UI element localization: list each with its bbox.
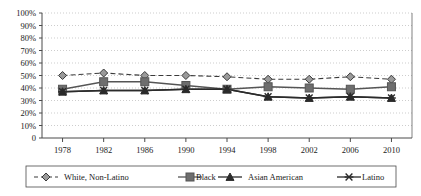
x-axis-ticks-group [63,138,392,142]
legend-item-label: Latino [362,172,384,182]
diamond-marker-icon [100,69,108,77]
y-axis-tick-label: 80% [20,33,36,43]
diamond-marker-icon [305,75,313,83]
x-axis-labels-group: 197819821986199019941998200220062010 [54,145,400,155]
y-axis-tick-label: 50% [20,71,36,81]
diamond-marker-icon [387,75,395,83]
x-axis-tick-label: 1990 [177,145,194,155]
x-axis-tick-label: 1998 [260,145,277,155]
legend-item-label: Asian American [248,172,304,182]
diamond-marker-icon [59,72,67,80]
y-axis-tick-label: 90% [20,21,36,31]
y-axis-tick-label: 30% [20,96,36,106]
y-axis-tick-label: 60% [20,58,36,68]
legend-item-label: Black [196,172,217,182]
x-axis-tick-label: 1982 [95,145,112,155]
y-axis-tick-label: 0 [32,133,36,143]
y-axis-tick-label: 10% [20,121,36,131]
square-marker-icon [141,78,149,86]
y-axis-labels-group: 100%90%80%70%60%50%40%30%20%10%0 [16,8,36,143]
chart-container: 100%90%80%70%60%50%40%30%20%10%0 1978198… [0,0,421,196]
line-chart: 100%90%80%70%60%50%40%30%20%10%0 1978198… [0,0,421,196]
y-axis-tick-label: 20% [20,108,36,118]
x-axis-tick-label: 2010 [383,145,400,155]
y-axis-tick-label: 40% [20,83,36,93]
legend-item-label: White, Non-Latino [64,172,129,182]
x-axis-tick-label: 2002 [301,145,318,155]
x-axis-tick-label: 2006 [342,145,359,155]
diamond-marker-icon [264,75,272,83]
x-axis-tick-label: 1994 [219,145,237,155]
gridlines-group [42,13,412,126]
y-axis-tick-label: 70% [20,46,36,56]
square-marker-icon [387,83,395,91]
x-axis-tick-label: 1978 [54,145,71,155]
square-marker-icon [264,83,272,91]
x-axis-tick-label: 1986 [136,145,153,155]
diamond-marker-icon [346,73,354,81]
square-marker-icon [186,173,194,181]
diamond-marker-icon [223,73,231,81]
square-marker-icon [100,78,108,86]
y-axis-tick-label: 100% [16,8,36,18]
diamond-marker-icon [182,72,190,80]
square-marker-icon [305,84,313,92]
